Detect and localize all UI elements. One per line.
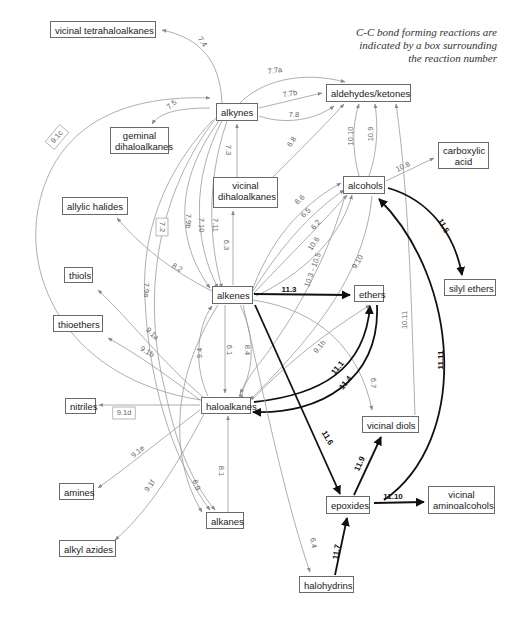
- reaction-arrow-6-2: [253, 195, 347, 294]
- svg-text:9.1f: 9.1f: [142, 477, 157, 493]
- reaction-map-diagram: 7.47.59.1c7.7a7.7b7.87.36.810.1010.910.1…: [0, 0, 523, 624]
- node-label: aldehydes/ketones: [331, 87, 406, 101]
- svg-text:6.6: 6.6: [293, 193, 307, 207]
- svg-text:6.8: 6.8: [285, 135, 298, 149]
- node-vicinal-dihaloalkanes: vicinaldihaloalkanes: [213, 177, 278, 208]
- reaction-arrow-6-4: [243, 305, 310, 572]
- node-label: acid: [443, 156, 484, 167]
- node-label: thioethers: [58, 318, 98, 331]
- legend-note-line-2: indicated by a box surrounding: [356, 39, 497, 52]
- svg-text:10.8: 10.8: [394, 159, 411, 173]
- reaction-label-9-1f: 9.1f: [142, 477, 157, 493]
- node-label: vicinal: [433, 489, 490, 500]
- node-alkyl-azides: alkyl azides: [59, 540, 116, 557]
- reaction-label-8-1: 8.1: [217, 466, 226, 476]
- node-label: alkenes: [217, 289, 248, 303]
- reaction-label-6-6: 6.6: [293, 193, 307, 207]
- reaction-arrow-11-5: [388, 188, 462, 275]
- node-label: silyl ethers: [449, 282, 491, 295]
- svg-text:7.10: 7.10: [197, 218, 206, 233]
- svg-text:10.6: 10.6: [306, 235, 322, 252]
- reaction-label-6-4: 6.4: [308, 537, 319, 549]
- node-label: dihaloalkanes: [218, 191, 273, 202]
- node-label: epoxides: [331, 499, 365, 513]
- reaction-edges: 7.47.59.1c7.7a7.7b7.87.36.810.1010.910.1…: [0, 0, 523, 624]
- node-label: ethers: [359, 288, 379, 301]
- svg-text:6.4: 6.4: [308, 537, 319, 549]
- svg-text:8.2: 8.2: [170, 261, 184, 274]
- svg-text:8.4: 8.4: [243, 345, 252, 355]
- svg-text:10.9: 10.9: [366, 127, 375, 142]
- reaction-label-7-7a: 7.7a: [267, 65, 284, 76]
- reaction-arrow-9-1b: [108, 338, 200, 400]
- reaction-arrow-9-1f: [115, 414, 204, 540]
- reaction-label-7-9a: 7.9a: [142, 283, 151, 298]
- node-carboxylic-acid: carboxylicacid: [438, 142, 489, 169]
- svg-text:7.7b: 7.7b: [282, 88, 298, 99]
- node-vicinal-tetrahaloalkanes: vicinal tetrahaloalkanes: [50, 21, 156, 38]
- reaction-label-11-5: 11.5: [436, 217, 452, 235]
- reaction-label-7-9b: 7.9b: [184, 214, 193, 229]
- node-nitriles: nitriles: [65, 398, 96, 414]
- reaction-label-10-9: 10.9: [366, 127, 375, 142]
- reaction-label-10-3-10-5: 10.3 - 10.5: [302, 251, 323, 288]
- node-label: nitriles: [70, 401, 91, 413]
- reaction-label-7-3: 7.3: [224, 145, 233, 155]
- svg-text:7.9b: 7.9b: [184, 214, 193, 229]
- svg-text:10.10: 10.10: [346, 127, 355, 146]
- reaction-label-9-1b: 9.1b: [139, 344, 156, 359]
- reaction-arrow-11-4: [253, 305, 377, 412]
- node-halohydrins: halohydrins: [299, 576, 354, 593]
- svg-text:10.3 - 10.5: 10.3 - 10.5: [302, 251, 323, 288]
- node-thiols: thiols: [64, 267, 93, 283]
- reaction-label-10-10: 10.10: [346, 127, 355, 146]
- reaction-label-9-10: 9.10: [350, 253, 365, 270]
- reaction-label-9-1a: 9.1a: [144, 325, 161, 342]
- legend-note-line-1: C-C bond forming reactions are: [356, 26, 497, 39]
- node-label: vicinal diols: [367, 419, 414, 432]
- node-vicinal-aminoalcohols: vicinalaminoalcohols: [428, 486, 495, 514]
- svg-text:7.5: 7.5: [165, 98, 179, 112]
- node-label: carboxylic: [443, 145, 484, 156]
- reaction-label-11-7: 11.7: [331, 543, 343, 560]
- svg-text:6.7: 6.7: [369, 378, 378, 388]
- node-ethers: ethers: [354, 285, 384, 302]
- reaction-label-6-1: 6.1: [225, 345, 234, 355]
- svg-text:7.7a: 7.7a: [267, 65, 284, 76]
- reaction-label-7-8: 7.8: [289, 110, 299, 119]
- reaction-label-9-1d: 9.1d: [113, 407, 135, 419]
- node-label: geminal: [115, 130, 164, 141]
- reaction-label-11-11: 11.11: [436, 350, 445, 370]
- reaction-label-7-7b: 7.7b: [282, 88, 298, 99]
- reaction-label-10-8: 10.8: [394, 159, 411, 173]
- svg-text:9.1a: 9.1a: [144, 325, 161, 342]
- node-label: amines: [64, 486, 89, 499]
- reaction-label-7-2: 7.2: [156, 218, 168, 236]
- reaction-label-11-3: 11.3: [281, 285, 297, 294]
- reaction-label-9-1e: 9.1e: [129, 443, 146, 459]
- reaction-label-9-4: 9.4: [195, 348, 204, 358]
- reaction-label-6-3: 6.3: [222, 240, 231, 250]
- svg-text:9.1d: 9.1d: [117, 408, 132, 417]
- node-alkynes: alkynes: [216, 103, 258, 121]
- node-label: vicinal tetrahaloalkanes: [55, 24, 151, 37]
- svg-text:11.5: 11.5: [436, 217, 452, 235]
- node-label: alkynes: [221, 106, 253, 120]
- reaction-label-6-2: 6.2: [309, 218, 323, 232]
- svg-text:7.8: 7.8: [289, 110, 299, 119]
- svg-text:11.3: 11.3: [281, 285, 297, 294]
- svg-text:8.1: 8.1: [217, 466, 226, 476]
- legend-note: C-C bond forming reactions are indicated…: [356, 26, 497, 65]
- reaction-label-8-2: 8.2: [170, 261, 184, 274]
- svg-text:11.11: 11.11: [436, 350, 445, 370]
- svg-text:9.1e: 9.1e: [129, 443, 146, 459]
- svg-text:7.11: 7.11: [211, 218, 220, 232]
- node-label: thiols: [69, 270, 88, 282]
- node-epoxides: epoxides: [326, 496, 370, 514]
- svg-text:11.7: 11.7: [331, 543, 343, 560]
- svg-text:7.9a: 7.9a: [142, 283, 151, 298]
- reaction-arrow-7-4: [162, 30, 222, 103]
- svg-text:9.1b: 9.1b: [139, 344, 156, 359]
- node-haloalkanes: haloalkanes: [201, 397, 251, 414]
- reaction-label-6-8: 6.8: [285, 135, 298, 149]
